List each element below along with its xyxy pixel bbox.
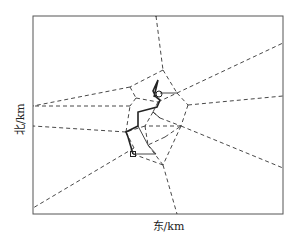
route-path [126, 80, 160, 154]
voronoi-path-diagram [0, 0, 297, 244]
x-axis-label: 东/km [20, 217, 297, 233]
voronoi-edge [145, 112, 153, 126]
voronoi-edge [33, 87, 130, 106]
voronoi-edge [177, 93, 188, 105]
voronoi-edge [188, 96, 283, 105]
voronoi-edge [130, 70, 163, 87]
voronoi-edge [148, 137, 165, 145]
voronoi-edge [165, 126, 181, 137]
y-axis-label: 北/km [11, 105, 27, 135]
voronoi-edge [156, 16, 163, 70]
voronoi-edges [33, 16, 283, 214]
network-edge [148, 145, 156, 154]
network-edges [133, 93, 177, 154]
voronoi-edge [158, 93, 177, 102]
start-marker-icon [156, 91, 162, 97]
voronoi-edge [181, 105, 188, 126]
voronoi-edge [33, 126, 126, 132]
voronoi-edge [130, 87, 136, 98]
voronoi-edge [163, 70, 177, 93]
voronoi-edge [160, 118, 181, 126]
voronoi-edge [136, 98, 158, 102]
voronoi-edge [130, 98, 136, 106]
voronoi-edge [126, 106, 130, 132]
voronoi-edge [177, 43, 283, 93]
network-edge [153, 112, 160, 118]
voronoi-edge [33, 148, 134, 208]
voronoi-edge [163, 165, 177, 214]
voronoi-edge [181, 126, 283, 168]
plot-frame [33, 16, 283, 214]
